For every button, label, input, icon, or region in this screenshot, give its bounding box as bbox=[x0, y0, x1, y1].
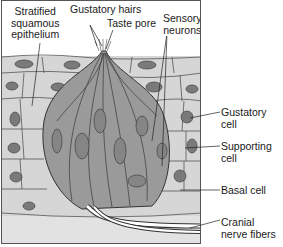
label-line: nerve fibers bbox=[221, 229, 276, 241]
label-basal-cell: Basal cell bbox=[221, 185, 266, 197]
label-gustatory-cell: Gustatory cell bbox=[221, 107, 267, 130]
label-line: cell bbox=[221, 119, 267, 131]
label-line: cell bbox=[221, 153, 272, 165]
label-cranial-nerve-fibers: Cranial nerve fibers bbox=[221, 217, 276, 240]
label-supporting-cell: Supporting cell bbox=[221, 141, 272, 164]
label-line: Supporting bbox=[221, 141, 272, 153]
label-line: Gustatory bbox=[221, 107, 267, 119]
label-line: Cranial bbox=[221, 217, 276, 229]
